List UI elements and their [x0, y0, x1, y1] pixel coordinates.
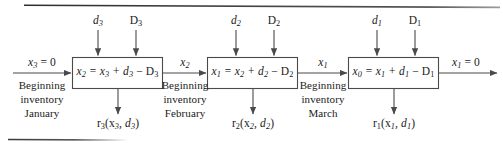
- label-return-r3: r3(x3, d3): [97, 117, 139, 131]
- caption-march: Beginning inventory March: [300, 78, 347, 120]
- rule-top: [24, 5, 500, 7]
- label-state-x3-initial: x3 = 0: [28, 56, 56, 70]
- label-D3: D3: [130, 14, 143, 28]
- rule-bottom: [8, 140, 128, 141]
- inventory-flow-diagram: d3 D3 d2 D2 d1 D1 x2 = x3 + d3 − D3 x1 =…: [0, 0, 503, 146]
- label-D1: D1: [409, 14, 422, 28]
- equation-february: x1 = x2 + d2 − D2: [212, 65, 294, 79]
- label-state-x1-final: x1 = 0: [452, 56, 480, 70]
- caption-january: Beginning inventory January: [19, 78, 66, 120]
- label-d3: d3: [93, 14, 103, 28]
- label-return-r2: r2(x2, d2): [232, 117, 274, 131]
- label-D2: D2: [268, 14, 281, 28]
- label-return-r1: r1(x1, d1): [373, 117, 415, 131]
- label-d2: d2: [231, 14, 241, 28]
- equation-march: x0 = x1 + d1 − D1: [353, 65, 435, 79]
- label-state-x2: x2: [180, 56, 189, 70]
- caption-february: Beginning inventory February: [162, 78, 209, 120]
- label-state-x1: x1: [318, 56, 327, 70]
- label-d1: d1: [372, 14, 382, 28]
- equation-january: x2 = x3 + d3 − D3: [77, 65, 159, 79]
